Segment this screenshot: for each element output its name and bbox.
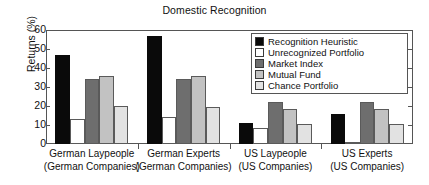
y-tick-mark-right <box>408 87 413 88</box>
legend-item: Market Index <box>255 58 404 69</box>
bar <box>191 76 206 144</box>
bar <box>85 79 100 144</box>
bar <box>162 117 177 144</box>
legend-swatch-icon <box>255 81 264 90</box>
bar <box>253 128 268 144</box>
chart-title: Domestic Recognition <box>0 4 429 16</box>
bar <box>360 102 375 144</box>
bar <box>70 119 85 144</box>
bar <box>389 124 404 144</box>
legend-label: Mutual Fund <box>268 69 321 80</box>
y-tick-mark-right <box>408 68 413 69</box>
y-tick-mark <box>46 125 50 126</box>
y-tick-label: 20 <box>22 100 46 111</box>
x-axis-group-label-line1: US Laypeople <box>244 148 307 159</box>
bar <box>283 109 298 144</box>
bar <box>374 109 389 144</box>
y-tick-label: 10 <box>22 119 46 130</box>
x-axis-group-label-line1: US Experts <box>342 148 393 159</box>
legend-swatch-icon <box>255 59 264 68</box>
legend-label: Chance Portfolio <box>268 80 338 91</box>
bar <box>99 76 114 144</box>
x-axis-group-label-line2: (US Companies) <box>309 160 425 173</box>
legend-swatch-icon <box>255 70 264 79</box>
bar <box>331 114 346 144</box>
y-tick-mark-right <box>408 125 413 126</box>
legend-item: Mutual Fund <box>255 69 404 80</box>
bar <box>55 55 70 144</box>
y-tick-mark-right <box>408 49 413 50</box>
legend-label: Market Index <box>268 58 323 69</box>
bar <box>268 102 283 144</box>
y-tick-mark <box>46 68 50 69</box>
legend-item: Chance Portfolio <box>255 80 404 91</box>
x-axis-group-label: US Experts(US Companies) <box>309 147 425 173</box>
y-tick-mark <box>46 49 50 50</box>
legend-item: Recognition Heuristic <box>255 36 404 47</box>
legend-label: Unrecognized Portfolio <box>268 47 364 58</box>
legend-item: Unrecognized Portfolio <box>255 47 404 58</box>
bar <box>176 79 191 144</box>
y-tick-label: 60 <box>22 24 46 35</box>
legend-swatch-icon <box>255 48 264 57</box>
bar <box>206 107 221 144</box>
y-tick-label: 40 <box>22 62 46 73</box>
bar <box>147 36 162 144</box>
bar <box>114 106 129 144</box>
bar-chart: Domestic Recognition Returns (%) 0102030… <box>0 0 429 185</box>
y-tick-label: 50 <box>22 43 46 54</box>
y-tick-label: 30 <box>22 81 46 92</box>
x-axis-group-label-line1: German Experts <box>147 148 220 159</box>
x-axis-group-label-line1: German Laypeople <box>49 148 134 159</box>
bar <box>297 124 312 144</box>
y-tick-mark <box>46 106 50 107</box>
y-tick-mark <box>46 87 50 88</box>
chart-legend: Recognition HeuristicUnrecognized Portfo… <box>251 33 408 94</box>
legend-label: Recognition Heuristic <box>268 36 358 47</box>
bar <box>345 142 360 144</box>
legend-swatch-icon <box>255 37 264 46</box>
y-tick-mark-right <box>408 106 413 107</box>
bar <box>239 123 254 144</box>
